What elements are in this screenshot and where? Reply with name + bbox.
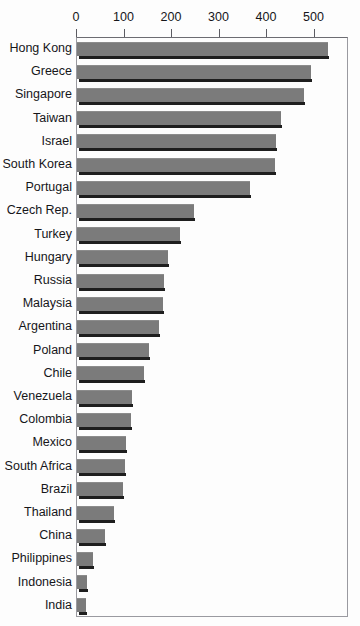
bar-fill — [77, 482, 123, 496]
category-label: Philippines — [0, 551, 72, 565]
bar-fill — [77, 575, 87, 589]
bar-row: Hong Kong — [0, 38, 360, 61]
bar-chart-figure: 0100200300400500 Hong KongGreeceSingapor… — [0, 0, 360, 626]
category-label: South Korea — [0, 157, 72, 171]
bar-shadow — [79, 195, 251, 198]
bar-row: Singapore — [0, 84, 360, 107]
bar-fill — [77, 204, 194, 218]
bar — [77, 575, 87, 592]
bar-shadow — [79, 56, 329, 59]
bar-shadow — [79, 102, 305, 105]
bar-shadow — [79, 450, 127, 453]
bar-shadow — [79, 148, 277, 151]
bar-fill — [77, 158, 275, 172]
category-label: Czech Rep. — [0, 203, 72, 217]
category-label: Hungary — [0, 250, 72, 264]
bar — [77, 274, 164, 291]
bar — [77, 320, 159, 337]
bar-fill — [77, 297, 163, 311]
category-label: Thailand — [0, 505, 72, 519]
bar — [77, 65, 311, 82]
category-label: Colombia — [0, 412, 72, 426]
bar-fill — [77, 459, 125, 473]
bar-shadow — [79, 311, 164, 314]
x-axis-tick-label: 200 — [161, 10, 182, 24]
bar-shadow — [79, 172, 276, 175]
category-label: Russia — [0, 273, 72, 287]
bar-fill — [77, 506, 114, 520]
bar-fill — [77, 552, 93, 566]
bar — [77, 343, 149, 360]
bar-shadow — [79, 380, 145, 383]
bar-fill — [77, 343, 149, 357]
bar-shadow — [79, 427, 132, 430]
bar-rows: Hong KongGreeceSingaporeTaiwanIsraelSout… — [0, 38, 360, 618]
bar-row: China — [0, 525, 360, 548]
chart-title-clipped — [0, 0, 360, 7]
bar — [77, 181, 250, 198]
category-label: Israel — [0, 134, 72, 148]
bar-shadow — [79, 496, 124, 499]
bar-shadow — [79, 473, 126, 476]
bar-fill — [77, 413, 131, 427]
bar-fill — [77, 42, 328, 56]
bar-row: Venezuela — [0, 386, 360, 409]
bar-shadow — [79, 612, 87, 615]
bar — [77, 413, 131, 430]
bar — [77, 390, 132, 407]
bar — [77, 111, 281, 128]
bar — [77, 88, 304, 105]
x-axis-tick-label: 500 — [303, 10, 324, 24]
bar-row: Colombia — [0, 409, 360, 432]
bar-shadow — [79, 79, 312, 82]
bar-row: Brazil — [0, 479, 360, 502]
bar-fill — [77, 529, 105, 543]
category-label: Venezuela — [0, 389, 72, 403]
category-label: Argentina — [0, 319, 72, 333]
bar-row: Mexico — [0, 432, 360, 455]
bar-fill — [77, 320, 159, 334]
bar-row: Indonesia — [0, 572, 360, 595]
bar-shadow — [79, 334, 160, 337]
x-axis-tick-mark — [219, 29, 220, 37]
x-axis-tick-mark — [266, 29, 267, 37]
bar — [77, 204, 194, 221]
bar-shadow — [79, 288, 165, 291]
category-label: Indonesia — [0, 575, 72, 589]
bar-row: Argentina — [0, 316, 360, 339]
category-label: Greece — [0, 64, 72, 78]
bar-shadow — [79, 543, 106, 546]
x-axis-tick-mark — [76, 29, 77, 37]
bar-row: Portugal — [0, 177, 360, 200]
bar-row: Czech Rep. — [0, 200, 360, 223]
bar — [77, 250, 168, 267]
x-axis-tick-label: 0 — [73, 10, 80, 24]
bar-shadow — [79, 241, 181, 244]
category-label: Mexico — [0, 435, 72, 449]
category-label: China — [0, 528, 72, 542]
category-label: Turkey — [0, 227, 72, 241]
bar — [77, 297, 163, 314]
bar-row: Thailand — [0, 502, 360, 525]
bar-fill — [77, 366, 144, 380]
bar-shadow — [79, 404, 133, 407]
bar-shadow — [79, 589, 88, 592]
bar-row: Taiwan — [0, 108, 360, 131]
bar-fill — [77, 227, 180, 241]
x-axis-tick-mark — [314, 29, 315, 37]
bar-shadow — [79, 218, 195, 221]
x-axis-tick-label: 400 — [256, 10, 277, 24]
x-axis-tick-labels: 0100200300400500 — [0, 10, 360, 28]
bar-row: Turkey — [0, 224, 360, 247]
bar-row: South Africa — [0, 456, 360, 479]
bar-shadow — [79, 566, 94, 569]
bar — [77, 459, 125, 476]
bar-row: Poland — [0, 340, 360, 363]
category-label: Brazil — [0, 482, 72, 496]
bar — [77, 436, 126, 453]
bar-row: India — [0, 595, 360, 618]
category-label: Hong Kong — [0, 41, 72, 55]
bar-fill — [77, 65, 311, 79]
bar — [77, 482, 123, 499]
x-axis-tick-label: 300 — [208, 10, 229, 24]
